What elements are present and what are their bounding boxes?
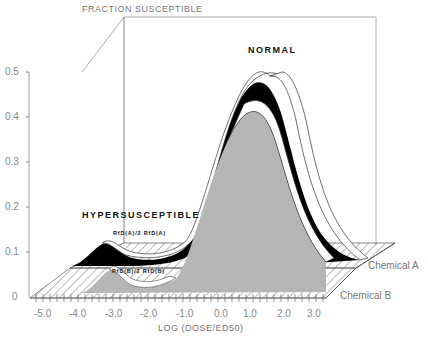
x-tick-neg5: -5.0: [34, 308, 51, 319]
series-label-chemical-b: Chemical B: [340, 290, 391, 301]
x-tick-neg4: -4.0: [69, 308, 86, 319]
y-tick-0: 0: [12, 291, 18, 302]
x-tick-neg3: -3.0: [105, 308, 122, 319]
y-tick-0.1: 0.1: [5, 246, 19, 257]
y-axis: [26, 72, 29, 298]
series-label-chemical-a: Chemical A: [368, 260, 419, 271]
x-tick-1: 1.0: [243, 308, 257, 319]
annotation-normal: NORMAL: [248, 45, 297, 55]
annotation-rfd-a: RfD(A)/2 RfD(A): [113, 230, 166, 236]
x-tick-2: 2.0: [277, 308, 291, 319]
x-axis-label: LOG (DOSE/ED50): [158, 323, 244, 333]
x-tick-neg1: -1.0: [176, 308, 193, 319]
chart-canvas: [0, 0, 428, 338]
y-tick-0.2: 0.2: [5, 201, 19, 212]
y-axis-label: FRACTION SUSCEPTIBLE: [82, 4, 203, 14]
x-tick-3: 3.0: [307, 308, 321, 319]
annotation-rfd-b: RfD(B)/2 RfD(B): [112, 268, 165, 274]
y-tick-0.4: 0.4: [5, 111, 19, 122]
y-tick-0.5: 0.5: [5, 66, 19, 77]
x-tick-neg2: -2.0: [140, 308, 157, 319]
annotation-hypersusceptible: HYPERSUSCEPTIBLE: [82, 210, 200, 220]
y-tick-0.3: 0.3: [5, 156, 19, 167]
x-tick-0: 0.0: [214, 308, 228, 319]
